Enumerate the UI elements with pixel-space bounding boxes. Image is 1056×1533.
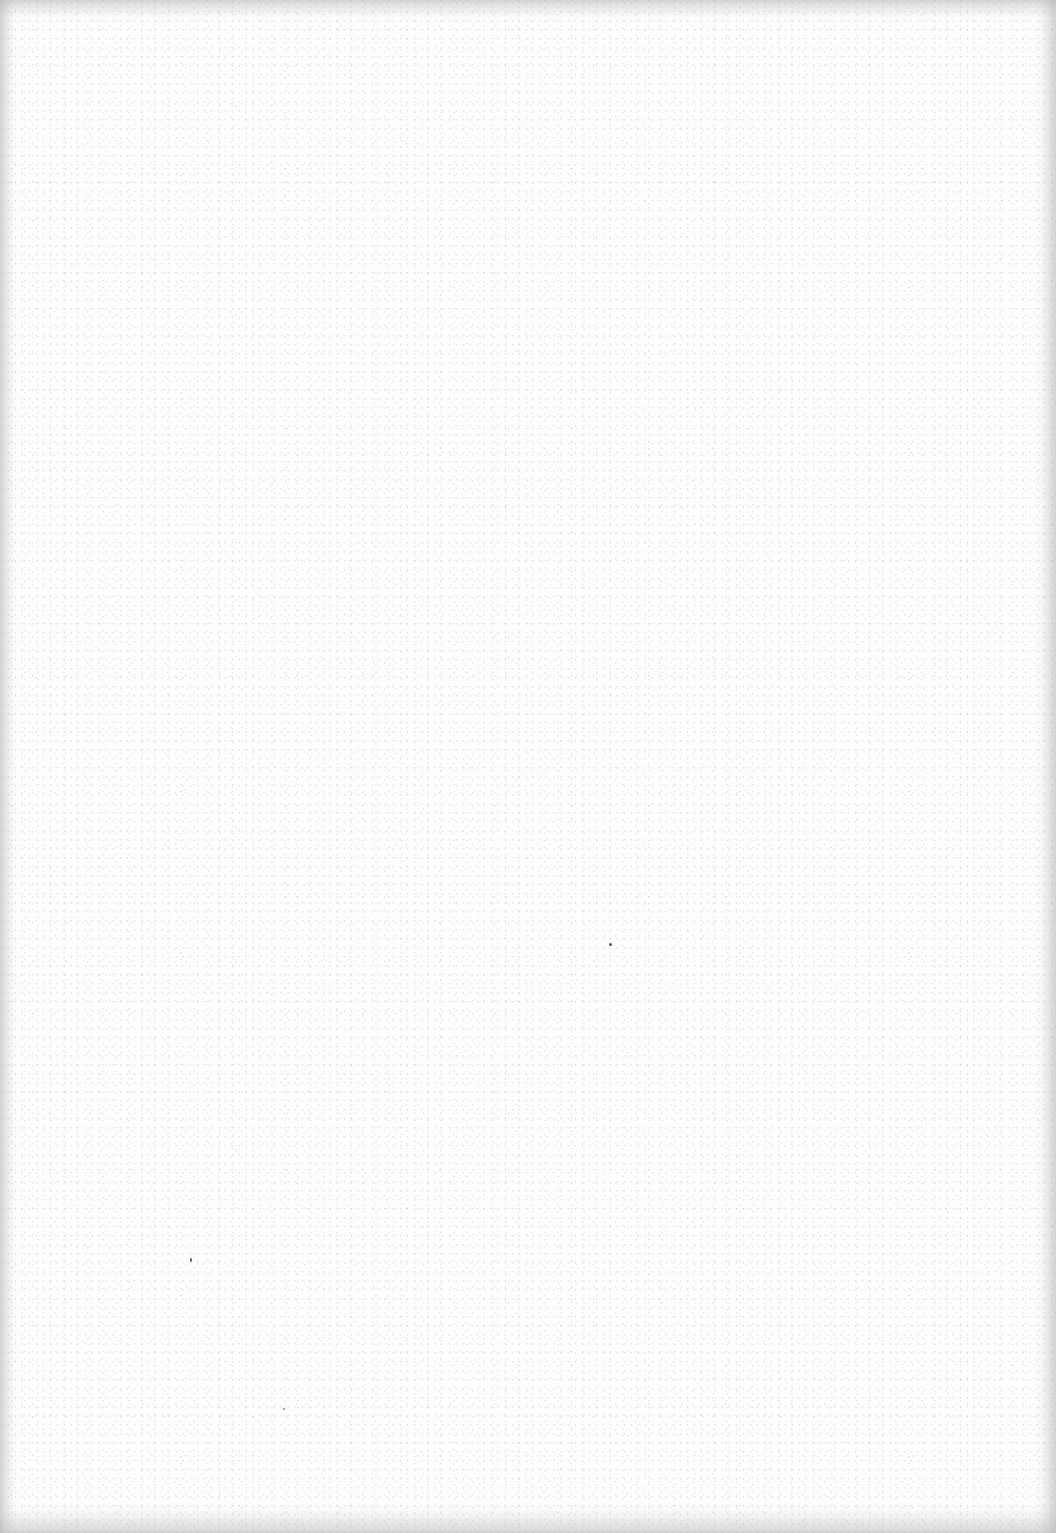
scan-edge-shadow	[0, 0, 1056, 1533]
paper-grain-texture	[0, 0, 1056, 1533]
dust-speck	[190, 1258, 192, 1262]
dust-speck	[609, 943, 612, 946]
dust-speck	[283, 1408, 285, 1410]
blank-document-page	[0, 0, 1056, 1533]
